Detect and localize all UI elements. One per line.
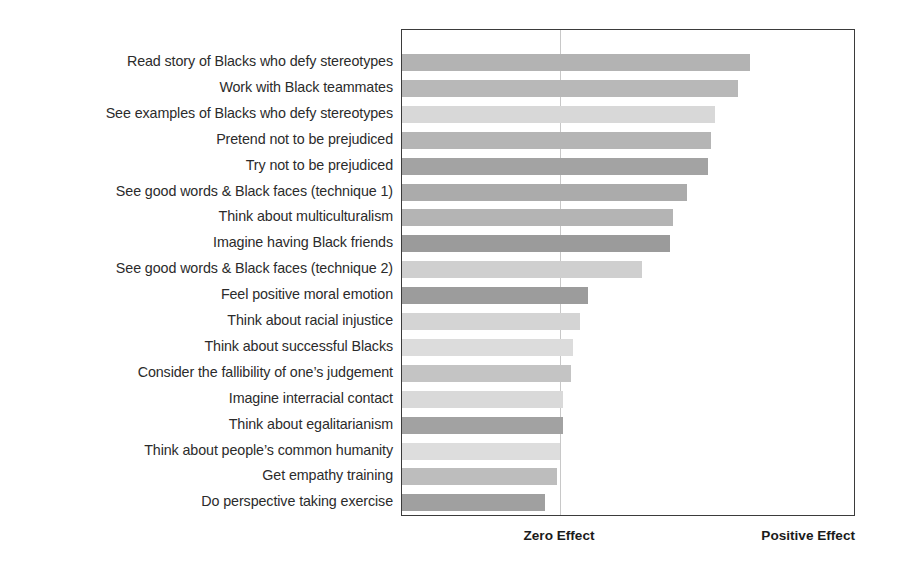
bar <box>402 261 642 278</box>
category-label-column: Read story of Blacks who defy stereotype… <box>0 29 393 516</box>
category-label: Think about people’s common humanity <box>0 442 393 459</box>
bar <box>402 443 560 460</box>
bar <box>402 80 738 97</box>
category-label: Get empathy training <box>0 467 393 484</box>
bar <box>402 468 557 485</box>
category-label: Consider the fallibility of one’s judgem… <box>0 364 393 381</box>
category-label: Try not to be prejudiced <box>0 157 393 174</box>
category-label: Work with Black teammates <box>0 79 393 96</box>
category-label: Read story of Blacks who defy stereotype… <box>0 53 393 70</box>
category-label: See good words & Black faces (technique … <box>0 183 393 200</box>
category-label: See examples of Blacks who defy stereoty… <box>0 105 393 122</box>
bar <box>402 417 563 434</box>
category-label: Think about multiculturalism <box>0 208 393 225</box>
bar <box>402 391 563 408</box>
category-label: Do perspective taking exercise <box>0 493 393 510</box>
zero-effect-axis-caption: Zero Effect <box>523 528 594 543</box>
bar <box>402 313 580 330</box>
bar <box>402 184 687 201</box>
category-label: Imagine interracial contact <box>0 390 393 407</box>
bar <box>402 339 573 356</box>
bar <box>402 132 711 149</box>
bar <box>402 158 708 175</box>
category-label: Imagine having Black friends <box>0 234 393 251</box>
bar <box>402 235 670 252</box>
category-label: Think about egalitarianism <box>0 416 393 433</box>
positive-effect-axis-caption: Positive Effect <box>761 528 855 543</box>
category-label: Think about racial injustice <box>0 312 393 329</box>
bar <box>402 287 588 304</box>
category-label: Pretend not to be prejudiced <box>0 131 393 148</box>
category-label: Feel positive moral emotion <box>0 286 393 303</box>
bar <box>402 54 750 71</box>
bar <box>402 365 571 382</box>
plot-area <box>401 29 855 516</box>
horizontal-bar-chart: Read story of Blacks who defy stereotype… <box>0 0 924 580</box>
category-label: Think about successful Blacks <box>0 338 393 355</box>
bar <box>402 494 545 511</box>
bar <box>402 106 715 123</box>
bar <box>402 209 673 226</box>
category-label: See good words & Black faces (technique … <box>0 260 393 277</box>
bars-container <box>402 30 854 515</box>
